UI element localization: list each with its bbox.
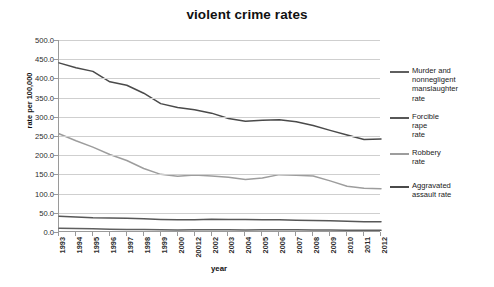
x-tick-label: 2012: [380, 237, 389, 253]
x-tick-mark: [380, 232, 381, 236]
y-tick-label: 450.0: [10, 55, 54, 64]
x-tick-label: 2010: [346, 237, 355, 253]
legend-label: Forcible rape rate: [412, 112, 439, 140]
x-tick-label: 2007: [295, 237, 304, 253]
x-tick-mark: [295, 232, 296, 236]
legend-item[interactable]: Robbery rate: [390, 148, 441, 166]
x-tick-label: 1995: [92, 237, 101, 253]
plot-area: [58, 40, 380, 232]
x-tick-label: 2003: [227, 237, 236, 253]
y-tick-label: 300.0: [10, 112, 54, 121]
series-line: [59, 228, 381, 230]
x-tick-mark: [244, 232, 245, 236]
legend-label: Robbery rate: [412, 148, 441, 166]
x-tick-mark: [194, 232, 195, 236]
gridline: [59, 213, 380, 214]
gridline: [59, 40, 380, 41]
x-tick-label: 2008: [312, 237, 321, 253]
y-tick-label: 150.0: [10, 170, 54, 179]
x-tick-label: 1994: [75, 237, 84, 253]
x-tick-label: 2005: [261, 237, 270, 253]
gridline: [59, 136, 380, 137]
series-line: [59, 216, 381, 221]
x-tick-label: 1993: [58, 237, 67, 253]
violent-crime-rates-chart: violent crime rates rate per 100,000 500…: [0, 0, 494, 287]
legend-line-swatch: [390, 71, 409, 73]
x-tick-label: 2000: [177, 237, 186, 253]
x-tick-label: 2002: [211, 237, 220, 253]
legend-line-swatch: [390, 153, 409, 155]
x-tick-label: 2004: [244, 237, 253, 253]
x-tick-mark: [126, 232, 127, 236]
gridline: [59, 174, 380, 175]
x-tick-mark: [58, 232, 59, 236]
series-line: [59, 134, 381, 189]
y-tick-label: 350.0: [10, 93, 54, 102]
x-tick-mark: [261, 232, 262, 236]
gridline: [59, 117, 380, 118]
y-tick-label: 0.0: [10, 228, 54, 237]
x-tick-label: 2006: [278, 237, 287, 253]
x-tick-mark: [160, 232, 161, 236]
y-tick-label: 400.0: [10, 74, 54, 83]
x-tick-mark: [211, 232, 212, 236]
x-tick-label: 2011: [363, 237, 372, 253]
x-tick-mark: [177, 232, 178, 236]
x-tick-label: 1997: [126, 237, 135, 253]
y-tick-label: 250.0: [10, 132, 54, 141]
chart-title: violent crime rates: [0, 7, 494, 22]
x-axis-title: year: [58, 264, 380, 273]
x-tick-mark: [278, 232, 279, 236]
legend-item[interactable]: Murder and nonnegligent manslaughter rat…: [390, 66, 458, 103]
gridline: [59, 98, 380, 99]
gridline: [59, 194, 380, 195]
x-tick-mark: [227, 232, 228, 236]
x-tick-label: 20012: [194, 237, 203, 258]
x-tick-mark: [143, 232, 144, 236]
y-axis-tick-labels: 500.0450.0400.0350.0300.0250.0200.0150.0…: [6, 40, 54, 232]
x-tick-label: 1996: [109, 237, 118, 253]
x-tick-mark: [363, 232, 364, 236]
y-tick-label: 50.0: [10, 208, 54, 217]
gridline: [59, 78, 380, 79]
gridline: [59, 59, 380, 60]
x-tick-mark: [75, 232, 76, 236]
x-tick-mark: [346, 232, 347, 236]
x-axis-tick-labels: 1993199419951996199719981999200020012200…: [58, 232, 380, 266]
x-tick-mark: [329, 232, 330, 236]
legend-item[interactable]: Aggravated assault rate: [390, 181, 451, 199]
legend-label: Aggravated assault rate: [412, 181, 451, 199]
legend-item[interactable]: Forcible rape rate: [390, 112, 439, 140]
x-tick-label: 1998: [143, 237, 152, 253]
legend-label: Murder and nonnegligent manslaughter rat…: [412, 66, 458, 103]
x-tick-label: 2009: [329, 237, 338, 253]
gridline: [59, 155, 380, 156]
y-tick-label: 200.0: [10, 151, 54, 160]
legend-line-swatch: [390, 117, 409, 119]
legend-line-swatch: [390, 186, 409, 188]
x-tick-mark: [109, 232, 110, 236]
y-tick-label: 100.0: [10, 189, 54, 198]
series-line: [59, 63, 381, 140]
y-tick-label: 500.0: [10, 36, 54, 45]
x-tick-mark: [92, 232, 93, 236]
x-tick-mark: [312, 232, 313, 236]
x-tick-label: 1999: [160, 237, 169, 253]
